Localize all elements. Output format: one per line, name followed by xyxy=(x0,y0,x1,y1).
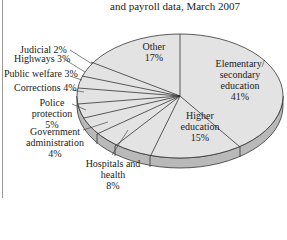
label-elementary-secondary: Elementary/ secondary education 41% xyxy=(205,58,275,102)
label-higher-education: Higher education 15% xyxy=(172,110,228,143)
label-hospitals-health: Hospitals and health 8% xyxy=(78,158,148,191)
label-other: Other 17% xyxy=(136,41,172,63)
label-public-welfare: Public welfare 3% xyxy=(4,68,78,79)
label-government-administration: Government administration 4% xyxy=(20,126,90,159)
label-highways: Highways 3% xyxy=(14,53,70,64)
label-corrections: Corrections 4% xyxy=(14,82,77,93)
